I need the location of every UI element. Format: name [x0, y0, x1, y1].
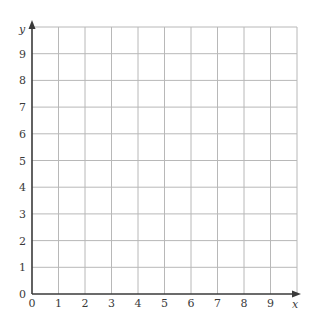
coordinate-grid: 0123456789 0123456789 x y: [0, 0, 312, 329]
x-tick-label: 2: [82, 297, 89, 310]
y-tick-label: 0: [19, 288, 26, 301]
x-tick-label: 4: [135, 297, 142, 310]
y-tick-label: 1: [19, 261, 26, 274]
x-tick-labels: 0123456789: [29, 297, 275, 310]
grid-lines: [32, 27, 297, 294]
y-tick-label: 5: [19, 155, 26, 168]
x-tick-label: 7: [214, 297, 221, 310]
x-tick-label: 6: [188, 297, 195, 310]
x-axis-label: x: [292, 298, 299, 311]
y-tick-labels: 0123456789: [19, 48, 26, 301]
y-tick-label: 3: [19, 208, 26, 221]
x-tick-label: 5: [161, 297, 168, 310]
y-tick-label: 2: [19, 235, 26, 248]
y-tick-label: 7: [19, 101, 26, 114]
x-tick-label: 1: [55, 297, 62, 310]
y-tick-label: 6: [19, 128, 26, 141]
x-tick-label: 3: [108, 297, 115, 310]
y-tick-label: 8: [19, 74, 26, 87]
x-tick-label: 8: [241, 297, 248, 310]
y-axis-label: y: [18, 23, 26, 36]
x-tick-label: 9: [267, 297, 274, 310]
y-axis-arrow-icon: [29, 20, 36, 29]
x-tick-label: 0: [29, 297, 36, 310]
y-tick-label: 9: [19, 48, 26, 61]
y-tick-label: 4: [19, 181, 26, 194]
